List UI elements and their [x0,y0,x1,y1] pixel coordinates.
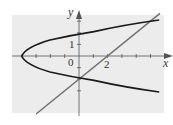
graph: y x 1 0 2 [0,0,173,125]
x-axis-label: x [162,56,169,70]
x-tick-label-2: 2 [104,58,110,70]
plot-background [12,15,164,113]
y-axis-label: y [67,5,74,19]
y-tick-label-1: 1 [69,38,75,50]
origin-label: 0 [68,56,74,68]
y-axis-arrow-icon [76,10,82,19]
